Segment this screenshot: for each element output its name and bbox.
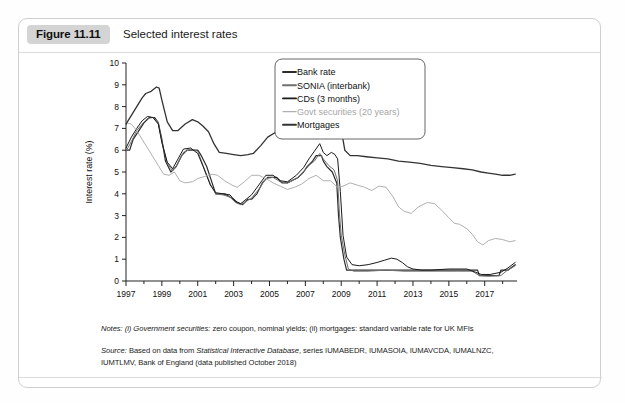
- notes-italic-part: (i) Government securities:: [125, 324, 211, 333]
- source-line-1: Source: Based on data from Statistical I…: [101, 346, 493, 355]
- x-axis-tick-label: 2007: [296, 289, 315, 299]
- series-line-sonia-interbank: [126, 118, 515, 277]
- interest-rates-line-chart: 0123456789101997199920012003200520072009…: [19, 53, 602, 323]
- y-axis-tick-label: 7: [114, 123, 119, 133]
- y-axis-tick-label: 2: [114, 232, 119, 242]
- source-label: Source:: [101, 346, 127, 355]
- x-axis-tick-label: 2013: [404, 289, 423, 299]
- chart-container: 0123456789101997199920012003200520072009…: [19, 53, 602, 323]
- y-axis-tick-label: 3: [114, 211, 119, 221]
- x-axis-tick-label: 2017: [475, 289, 494, 299]
- x-axis-tick-label: 1997: [117, 289, 136, 299]
- series-line-bank-rate: [126, 118, 515, 276]
- notes-line: Notes: (i) Government securities: zero c…: [101, 324, 474, 333]
- figure-header: Figure 11.11 Selected interest rates: [19, 19, 600, 53]
- y-axis-tick-label: 4: [114, 189, 119, 199]
- series-line-govt-securities-20-years: [126, 123, 515, 245]
- figure-number-badge: Figure 11.11: [27, 25, 110, 44]
- x-axis-tick-label: 2015: [439, 289, 458, 299]
- notes-rest: zero coupon, nominal yields; (ii) mortga…: [210, 324, 473, 333]
- source-text-a: Based on data from: [127, 346, 197, 355]
- y-axis-tick-label: 10: [110, 58, 120, 68]
- source-line-2: IUMTLMV, Bank of England (data published…: [101, 358, 296, 367]
- y-axis-tick-label: 9: [114, 80, 119, 90]
- bottom-divider: [19, 377, 602, 378]
- y-axis-tick-label: 8: [114, 102, 119, 112]
- x-axis-tick-label: 2011: [368, 289, 387, 299]
- legend-label-govt-securities-20-years: Govt securities (20 years): [297, 107, 400, 117]
- y-axis-title: Interest rate (%): [84, 140, 94, 203]
- figure-card: Figure 11.11 Selected interest rates 012…: [18, 18, 601, 388]
- legend-label-mortgages: Mortgages: [297, 120, 340, 130]
- source-text-b: , series IUMABEDR, IUMASOIA, IUMAVCDA, I…: [299, 346, 494, 355]
- series-line-cds-3-months: [126, 116, 515, 274]
- y-axis-tick-label: 6: [114, 145, 119, 155]
- y-axis-tick-label: 5: [114, 167, 119, 177]
- x-axis-tick-label: 2003: [224, 289, 243, 299]
- legend-label-sonia-interbank: SONIA (interbank): [297, 81, 370, 91]
- source-database-name: Statistical Interactive Database: [196, 346, 299, 355]
- notes-label: Notes:: [101, 324, 123, 333]
- y-axis-tick-label: 0: [114, 276, 119, 286]
- figure-title: Selected interest rates: [123, 28, 237, 40]
- x-axis-tick-label: 2005: [260, 289, 279, 299]
- x-axis-tick-label: 2001: [188, 289, 207, 299]
- legend-label-bank-rate: Bank rate: [297, 67, 336, 77]
- figure-page: Figure 11.11 Selected interest rates 012…: [0, 0, 625, 403]
- y-axis-tick-label: 1: [114, 254, 119, 264]
- legend-label-cds-3-months: CDs (3 months): [297, 94, 360, 104]
- x-axis-tick-label: 1999: [152, 289, 171, 299]
- x-axis-tick-label: 2009: [332, 289, 351, 299]
